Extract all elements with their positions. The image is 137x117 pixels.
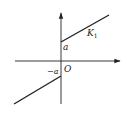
origin-label: O	[64, 64, 72, 74]
negative-intercept-label: −a	[47, 67, 59, 76]
slope-subscript: 1	[94, 32, 98, 39]
upper-characteristic-line	[61, 15, 109, 42]
slope-label: K1	[86, 28, 98, 39]
positive-intercept-label: a	[63, 42, 68, 52]
diagram-canvas: a O −a K1	[0, 0, 137, 117]
lower-characteristic-line	[14, 76, 61, 104]
